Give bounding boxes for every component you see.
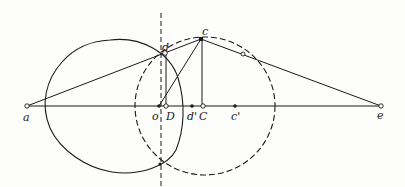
point-c-prime bbox=[233, 104, 237, 108]
segment-c-e bbox=[201, 39, 381, 106]
label-a: a bbox=[23, 111, 30, 124]
diagram-canvas: a o D d' C c' e c d bbox=[0, 0, 405, 187]
label-d-prime: d' bbox=[187, 110, 197, 123]
geometry-figure: a o D d' C c' e c d bbox=[0, 0, 405, 187]
point-e bbox=[379, 104, 383, 108]
label-c-prime: c' bbox=[231, 110, 240, 123]
point-a bbox=[25, 104, 29, 108]
label-c: c bbox=[202, 25, 208, 38]
label-e: e bbox=[377, 109, 384, 122]
point-D bbox=[164, 104, 168, 108]
point-d-prime bbox=[190, 104, 194, 108]
point-tangent bbox=[241, 52, 245, 56]
segment-a-c bbox=[27, 39, 201, 106]
label-o: o bbox=[152, 110, 159, 123]
label-C: C bbox=[199, 110, 208, 123]
label-d: d bbox=[162, 41, 169, 54]
point-C bbox=[201, 104, 205, 108]
label-D: D bbox=[165, 110, 175, 123]
point-o bbox=[157, 104, 161, 108]
point-intersection-bottom bbox=[159, 163, 162, 166]
